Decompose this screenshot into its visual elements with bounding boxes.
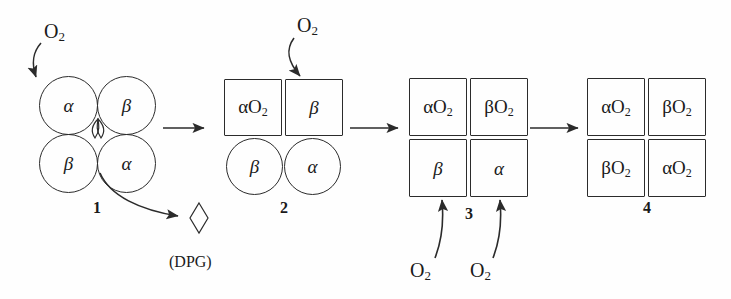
subunit-label: αO2 bbox=[423, 97, 453, 118]
state3-subunit-bottom-right: α bbox=[470, 139, 528, 197]
subunit-label: α bbox=[64, 96, 74, 115]
dpg-diamond-icon bbox=[190, 203, 208, 233]
state-number-3: 3 bbox=[450, 205, 488, 223]
state-number-2: 2 bbox=[265, 199, 303, 217]
state4-subunit-top-right: βO2 bbox=[648, 78, 706, 136]
o2-arrow-state3-left bbox=[435, 200, 443, 258]
subunit-label: βO2 bbox=[662, 97, 691, 118]
state1-subunit-top-left: α bbox=[39, 76, 98, 135]
state3-subunit-top-right: βO2 bbox=[470, 78, 528, 136]
subunit-label: βO2 bbox=[484, 97, 513, 118]
state4-subunit-bottom-right: αO2 bbox=[648, 139, 706, 197]
state2-subunit-bottom-left: β bbox=[226, 138, 283, 195]
subunit-label: α bbox=[122, 154, 132, 173]
figure-canvas: α β β α 1 αO2 β β α 2 αO2 βO2 β α 3 αO2 … bbox=[0, 0, 731, 299]
subunit-label: β bbox=[64, 154, 73, 173]
state1-subunit-bottom-right: α bbox=[97, 134, 156, 193]
o2-label-state2: O2 bbox=[297, 14, 318, 39]
state1-subunit-bottom-left: β bbox=[39, 134, 98, 193]
state1-subunit-top-right: β bbox=[97, 76, 156, 135]
o2-label-state3-right: O2 bbox=[470, 259, 491, 284]
o2-arrow-state1 bbox=[33, 43, 41, 77]
state3-subunit-top-left: αO2 bbox=[409, 78, 467, 136]
subunit-label: β bbox=[433, 159, 442, 178]
o2-arrow-state3-right bbox=[493, 200, 501, 258]
subunit-label: αO2 bbox=[238, 97, 268, 118]
state-number-4: 4 bbox=[628, 199, 666, 217]
subunit-label: α bbox=[308, 157, 318, 176]
state2-subunit-top-left: αO2 bbox=[224, 79, 282, 136]
state2-subunit-bottom-right: α bbox=[284, 138, 341, 195]
subunit-label: α bbox=[494, 159, 504, 178]
state4-subunit-bottom-left: βO2 bbox=[587, 139, 645, 197]
state4-subunit-top-left: αO2 bbox=[587, 78, 645, 136]
subunit-label: αO2 bbox=[662, 158, 692, 179]
o2-label-state1: O2 bbox=[44, 20, 65, 45]
subunit-label: β bbox=[122, 96, 131, 115]
state3-subunit-bottom-left: β bbox=[409, 139, 467, 197]
subunit-label: β bbox=[309, 98, 318, 117]
dpg-label: (DPG) bbox=[169, 253, 212, 271]
state2-subunit-top-right: β bbox=[285, 79, 343, 136]
subunit-label: β bbox=[250, 157, 259, 176]
o2-arrow-state2 bbox=[289, 38, 300, 76]
subunit-label: αO2 bbox=[601, 97, 631, 118]
subunit-label: βO2 bbox=[601, 158, 630, 179]
state-number-1: 1 bbox=[78, 199, 116, 217]
o2-label-state3-left: O2 bbox=[410, 259, 431, 284]
